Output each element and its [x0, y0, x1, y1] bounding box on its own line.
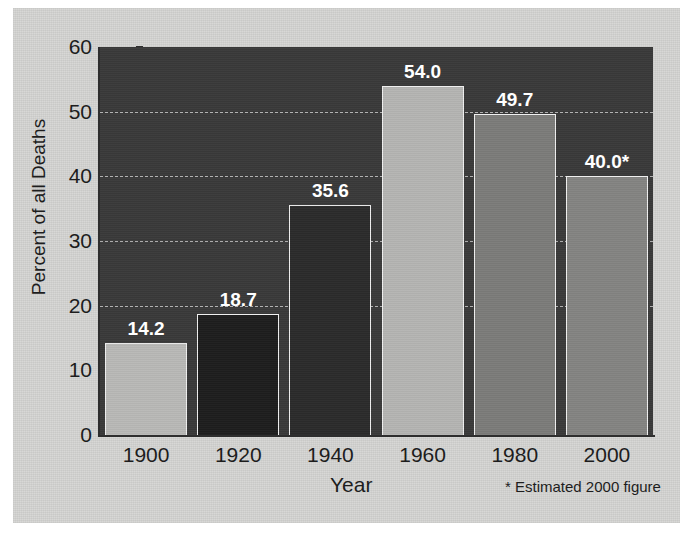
bar-value-label-1920: 18.7 — [197, 289, 279, 311]
x-tick-label-1920: 1920 — [192, 443, 284, 467]
y-tick-label: 30 — [48, 230, 92, 251]
gridline — [100, 112, 653, 113]
bar-1900[interactable] — [105, 343, 187, 435]
x-tick-label-2000: 2000 — [561, 443, 653, 467]
bar-1940[interactable] — [289, 205, 371, 435]
y-tick-label: 20 — [48, 295, 92, 316]
x-tick-label-1940: 1940 — [284, 443, 376, 467]
y-tick-label: 50 — [48, 101, 92, 122]
x-axis-title: Year — [330, 473, 372, 497]
y-tick-label: 10 — [48, 359, 92, 380]
bar-value-label-1940: 35.6 — [289, 180, 371, 202]
x-tick-label-1900: 1900 — [100, 443, 192, 467]
bar-value-label-1900: 14.2 — [105, 318, 187, 340]
bar-1960[interactable] — [382, 86, 464, 435]
y-tick-label: 40 — [48, 165, 92, 186]
bar-2000[interactable] — [566, 176, 648, 435]
y-tick-label: 0 — [48, 424, 92, 445]
plot-area — [100, 47, 653, 435]
chart-figure: Percent of all Deaths 0102030405060 14.2… — [0, 0, 693, 538]
x-axis-line — [98, 435, 655, 437]
bar-value-label-1980: 49.7 — [474, 89, 556, 111]
y-tick-label: 60 — [48, 36, 92, 57]
y-axis-ticks: 0102030405060 — [44, 0, 92, 538]
x-tick-label-1960: 1960 — [377, 443, 469, 467]
bar-1920[interactable] — [197, 314, 279, 435]
bar-1980[interactable] — [474, 114, 556, 435]
x-tick-label-1980: 1980 — [469, 443, 561, 467]
bar-value-label-1960: 54.0 — [382, 61, 464, 83]
chart-footnote: * Estimated 2000 figure — [505, 478, 661, 495]
bar-value-label-2000: 40.0* — [566, 151, 648, 173]
